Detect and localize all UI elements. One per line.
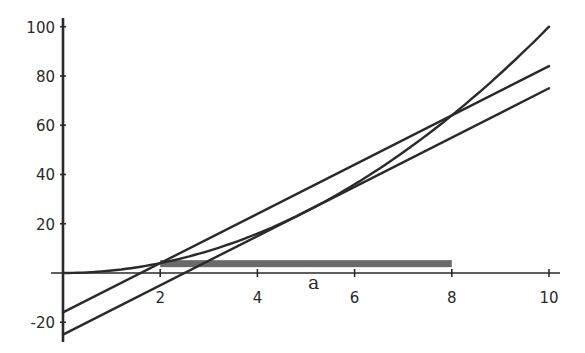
x-tick-label: 8 [447,289,457,307]
x-axis-label: a [308,271,319,293]
plot-series [63,27,549,335]
x-tick-label: 10 [539,289,558,307]
x-tick-label: 2 [155,289,165,307]
series-line [63,88,549,334]
y-tick-label: 80 [36,68,55,86]
x-tick-label: 4 [253,289,263,307]
axes [51,18,560,342]
chart: -2020406080100246810 a [0,0,585,353]
series-line [63,27,549,273]
y-tick-label: -20 [31,314,56,332]
y-tick-label: 100 [26,19,55,37]
y-tick-label: 40 [36,166,55,184]
y-tick-label: 20 [36,216,55,234]
series-line [63,66,549,312]
y-tick-label: 60 [36,117,55,135]
tick-labels: -2020406080100246810 [26,19,558,333]
x-tick-label: 6 [350,289,360,307]
